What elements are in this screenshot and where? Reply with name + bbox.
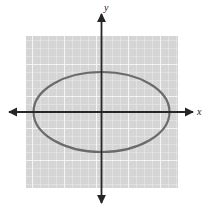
figure-container: y x	[0, 0, 210, 213]
y-axis-label: y	[103, 2, 109, 13]
graph-figure: y x	[0, 0, 210, 213]
x-axis-label: x	[196, 106, 202, 117]
